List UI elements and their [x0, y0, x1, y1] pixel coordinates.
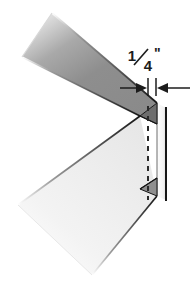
upper-flange	[22, 13, 157, 116]
inch-mark: "	[154, 45, 161, 61]
bend-diagram-canvas: 1 4 "	[0, 0, 193, 287]
dimension-arrowhead-right	[157, 83, 168, 93]
fraction-denominator: 4	[144, 57, 153, 74]
fraction-numerator: 1	[128, 47, 136, 64]
lower-flange	[18, 116, 157, 275]
dimension-label: 1 4 "	[128, 45, 161, 74]
sheet-metal-bend-figure: 1 4 "	[0, 0, 193, 287]
folded-edge-face	[157, 103, 166, 200]
